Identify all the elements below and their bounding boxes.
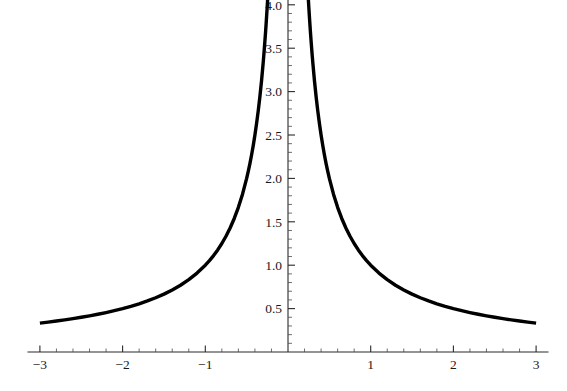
x-tick-label: 2 — [450, 357, 457, 372]
y-axis-minor-ticks — [288, 0, 292, 343]
chart-figure: −3−2−1123 0.51.01.52.02.53.03.54.0 — [0, 0, 567, 391]
x-tick-label: 1 — [367, 357, 374, 372]
x-tick-label: 3 — [533, 357, 540, 372]
y-tick-label: 3.0 — [265, 84, 282, 99]
y-axis-group: 0.51.01.52.02.53.03.54.0 — [265, 0, 295, 352]
y-axis-major-ticks — [288, 5, 295, 309]
y-tick-label: 2.0 — [265, 171, 282, 186]
plot-canvas: −3−2−1123 0.51.01.52.02.53.03.54.0 — [0, 0, 567, 391]
y-tick-label: 2.5 — [265, 128, 282, 143]
curve-right-branch — [308, 0, 536, 323]
x-tick-label: −2 — [115, 357, 129, 372]
curve-left-branch — [40, 0, 268, 323]
x-tick-label: −3 — [33, 357, 48, 372]
y-tick-label: 1.0 — [265, 258, 282, 273]
x-axis-tick-labels: −3−2−1123 — [33, 357, 540, 372]
y-axis-tick-labels: 0.51.01.52.02.53.03.54.0 — [265, 0, 282, 316]
x-tick-label: −1 — [198, 357, 212, 372]
y-tick-label: 3.5 — [265, 41, 282, 56]
y-tick-label: 1.5 — [265, 215, 282, 230]
y-tick-label: 0.5 — [265, 301, 282, 316]
